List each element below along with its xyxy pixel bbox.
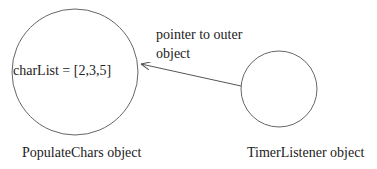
timer-listener-node: TimerListener object <box>241 51 364 160</box>
timer-listener-label: TimerListener object <box>247 145 364 160</box>
object-diagram: charList = [2,3,5] PopulateChars object … <box>0 0 377 169</box>
pointer-label-line2: object <box>156 46 190 61</box>
populate-chars-label: PopulateChars object <box>22 145 141 160</box>
timer-listener-circle <box>241 51 317 127</box>
outer-pointer-edge: pointer to outer object <box>141 27 243 86</box>
char-list-field: charList = [2,3,5] <box>13 63 111 78</box>
populate-chars-node: charList = [2,3,5] PopulateChars object <box>12 9 141 160</box>
pointer-arrow <box>141 64 241 86</box>
pointer-label-line1: pointer to outer <box>156 27 243 42</box>
